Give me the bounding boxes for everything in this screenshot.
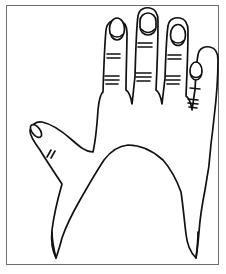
middle-finger-nail bbox=[140, 13, 156, 35]
figure-frame: Line drawing of an open right hand, palm… bbox=[0, 0, 226, 274]
hand-outline bbox=[30, 8, 218, 258]
hand-drawing: Line drawing of an open right hand, palm… bbox=[0, 0, 226, 274]
little-finger-crease-upper bbox=[190, 88, 200, 89]
